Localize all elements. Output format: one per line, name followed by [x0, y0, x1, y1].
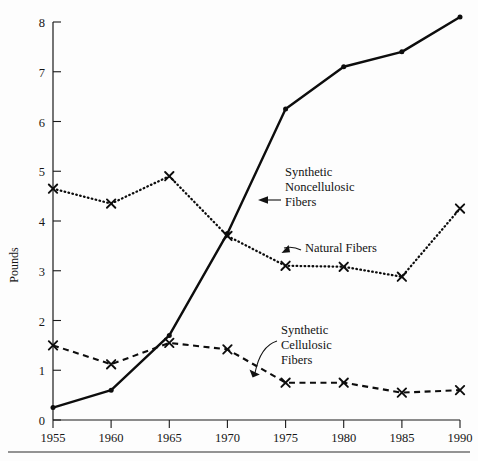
y-axis-tick-labels: 8 7 6 5 4 3 2 1 0	[39, 16, 46, 428]
x-tick-label: 1970	[215, 431, 240, 445]
annotation-line: Fibers	[285, 195, 316, 209]
y-axis: 8 7 6 5 4 3 2 1 0 Pounds	[7, 16, 61, 428]
annotation-line: Fibers	[281, 353, 312, 367]
figure-container: 8 7 6 5 4 3 2 1 0 Pounds	[0, 0, 478, 461]
data-point-marker	[281, 378, 289, 386]
data-point-marker	[167, 333, 172, 338]
y-tick-label: 7	[39, 66, 45, 80]
data-point-marker	[283, 107, 288, 112]
x-tick-label: 1985	[389, 431, 414, 445]
x-tick-label: 1990	[448, 431, 473, 445]
annotation-line: Noncellulosic	[285, 180, 355, 194]
data-point-marker	[456, 204, 464, 212]
y-tick-label: 8	[39, 16, 45, 30]
series-line	[53, 176, 460, 277]
data-point-marker	[399, 49, 404, 54]
data-point-marker	[458, 15, 463, 20]
y-tick-label: 5	[39, 165, 45, 179]
series-line	[53, 17, 460, 408]
x-tick-label: 1960	[99, 431, 124, 445]
annotation-line: Natural Fibers	[305, 241, 377, 255]
annotation-line: Synthetic	[281, 323, 329, 337]
line-chart: 8 7 6 5 4 3 2 1 0 Pounds	[0, 0, 478, 461]
data-point-marker	[341, 64, 346, 69]
data-point-marker	[109, 388, 114, 393]
annotation-line: Synthetic	[285, 165, 333, 179]
x-tick-label: 1965	[157, 431, 182, 445]
y-tick-label: 4	[39, 215, 46, 229]
annotation-line: Cellulosic	[281, 338, 332, 352]
x-tick-label: 1980	[331, 431, 356, 445]
x-tick-label: 1975	[273, 431, 298, 445]
series-layer	[49, 15, 464, 411]
data-point-marker	[165, 172, 173, 180]
y-tick-label: 1	[39, 364, 45, 378]
x-axis: 1955 1960 1965 1970 1975 1980 1985 1990	[41, 420, 473, 445]
data-point-marker	[51, 405, 56, 410]
x-tick-label: 1955	[41, 431, 66, 445]
annotation-natural-fibers: Natural Fibers	[282, 241, 377, 255]
y-axis-ticks	[53, 22, 61, 420]
series-natural-fibers	[49, 172, 464, 281]
y-axis-title: Pounds	[7, 247, 21, 283]
x-axis-tick-labels: 1955 1960 1965 1970 1975 1980 1985 1990	[41, 431, 473, 445]
x-axis-ticks	[53, 420, 460, 428]
y-tick-label: 2	[39, 315, 45, 329]
y-tick-label: 6	[39, 116, 45, 130]
series-synthetic-noncellulosic-fibers	[51, 15, 463, 411]
annotation-synthetic-noncellulosic: Synthetic Noncellulosic Fibers	[258, 165, 355, 209]
y-tick-label: 0	[39, 414, 45, 428]
y-tick-label: 3	[39, 265, 45, 279]
